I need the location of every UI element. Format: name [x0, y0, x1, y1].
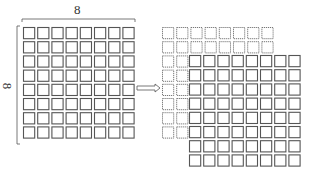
width-dimension-line [22, 19, 135, 22]
left-grid [24, 28, 135, 139]
grid-diagram [0, 0, 309, 181]
height-dimension-line [17, 26, 20, 144]
right-solid-grid [190, 56, 301, 167]
right-arrow-icon [137, 84, 160, 92]
